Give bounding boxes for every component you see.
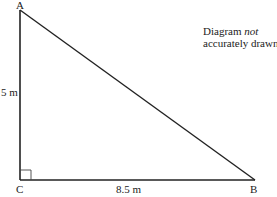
note-suffix: accurately drawn (203, 37, 277, 49)
note-prefix: Diagram (203, 25, 244, 37)
vertex-label-a: A (16, 0, 24, 11)
vertex-label-b: B (250, 184, 257, 195)
not-to-scale-note: Diagram not accurately drawn (203, 25, 277, 49)
right-angle-marker (20, 170, 31, 180)
note-emphasis: not (244, 25, 258, 37)
side-label-ac: 5 m (1, 87, 18, 98)
side-label-cb: 8.5 m (116, 184, 141, 195)
vertex-label-c: C (16, 184, 23, 195)
